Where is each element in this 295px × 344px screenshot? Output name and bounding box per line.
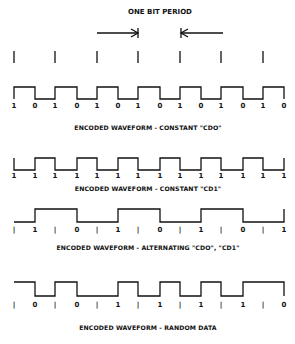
bit-label: |: [262, 301, 265, 309]
bit-label: 1: [116, 226, 121, 234]
bit-label: 1: [136, 102, 141, 110]
waveform-trace: [14, 158, 284, 170]
bit-boundary-ticks: [14, 51, 263, 63]
bit-label: 1: [116, 172, 121, 180]
bit-label: 1: [261, 102, 266, 110]
bit-label: 1: [219, 172, 224, 180]
bit-label: 1: [53, 172, 58, 180]
bit-label: 0: [75, 226, 80, 234]
bit-label: |: [54, 226, 57, 234]
bit-label: |: [13, 301, 16, 309]
bit-label: 1: [199, 172, 204, 180]
waveform-alternating: |1|0|1|0|1|0|1ENCODED WAVEFORM - ALTERNA…: [13, 209, 287, 251]
bit-label: 0: [199, 102, 204, 110]
bit-label: 1: [282, 172, 287, 180]
bit-label: 0: [75, 301, 80, 309]
bit-label: |: [54, 301, 57, 309]
bit-label: 0: [116, 102, 121, 110]
bit-label: 1: [33, 172, 38, 180]
bit-label: |: [220, 226, 223, 234]
bit-label: |: [262, 226, 265, 234]
waveform-trace: [14, 209, 284, 222]
bit-label: 1: [178, 102, 183, 110]
bit-label: 0: [75, 102, 80, 110]
bit-label: 1: [199, 301, 204, 309]
waveform-trace: [14, 87, 284, 99]
manchester-encoding-diagram: ONE BIT PERIOD 10101010101010ENCODED WAV…: [0, 0, 295, 344]
waveform-constant-cd1: 11111111111111ENCODED WAVEFORM - CONSTAN…: [12, 158, 287, 192]
bit-label: 1: [282, 226, 287, 234]
waveform-trace: [14, 282, 284, 296]
waveform-caption: ENCODED WAVEFORM - ALTERNATING "CDO", "C…: [56, 244, 239, 251]
bit-label: 1: [219, 102, 224, 110]
bit-label: 0: [158, 102, 163, 110]
bit-label: |: [96, 301, 99, 309]
waveform-constant-cd0: 10101010101010ENCODED WAVEFORM - CONSTAN…: [12, 87, 287, 131]
bit-label: 1: [12, 172, 17, 180]
diagram-title: ONE BIT PERIOD: [128, 8, 192, 16]
bit-label: 0: [282, 102, 287, 110]
bit-label: 1: [241, 172, 246, 180]
bit-label: 1: [158, 301, 163, 309]
bit-label: |: [220, 301, 223, 309]
waveform-random-data: |0|0|1|1|1|1|0ENCODED WAVEFORM - RANDOM …: [13, 282, 287, 331]
bit-label: 1: [261, 172, 266, 180]
bit-label: 0: [33, 301, 38, 309]
bit-label: 0: [241, 102, 246, 110]
bit-label: 1: [53, 102, 58, 110]
bit-label: 1: [33, 226, 38, 234]
bit-label: 1: [75, 172, 80, 180]
bit-label: 1: [136, 172, 141, 180]
bit-label: |: [13, 226, 16, 234]
bit-label: 0: [33, 102, 38, 110]
waveform-caption: ENCODED WAVEFORM - RANDOM DATA: [79, 324, 217, 331]
waveform-caption: ENCODED WAVEFORM - CONSTANT "CDO": [74, 124, 221, 131]
waveform-caption: ENCODED WAVEFORM - CONSTANT "CD1": [75, 185, 221, 192]
bit-label: 1: [178, 172, 183, 180]
bit-label: 1: [95, 172, 100, 180]
bit-period-marker: [97, 28, 223, 38]
bit-label: 1: [158, 172, 163, 180]
bit-label: 0: [282, 301, 287, 309]
bit-label: 1: [241, 301, 246, 309]
bit-label: |: [137, 301, 140, 309]
bit-label: 0: [241, 226, 246, 234]
bit-label: |: [179, 301, 182, 309]
bit-label: 0: [158, 226, 163, 234]
bit-label: 1: [12, 102, 17, 110]
bit-label: |: [137, 226, 140, 234]
bit-label: 1: [95, 102, 100, 110]
bit-label: |: [96, 226, 99, 234]
bit-label: 1: [116, 301, 121, 309]
waveforms: 10101010101010ENCODED WAVEFORM - CONSTAN…: [12, 87, 287, 331]
bit-label: 1: [199, 226, 204, 234]
bit-label: |: [179, 226, 182, 234]
